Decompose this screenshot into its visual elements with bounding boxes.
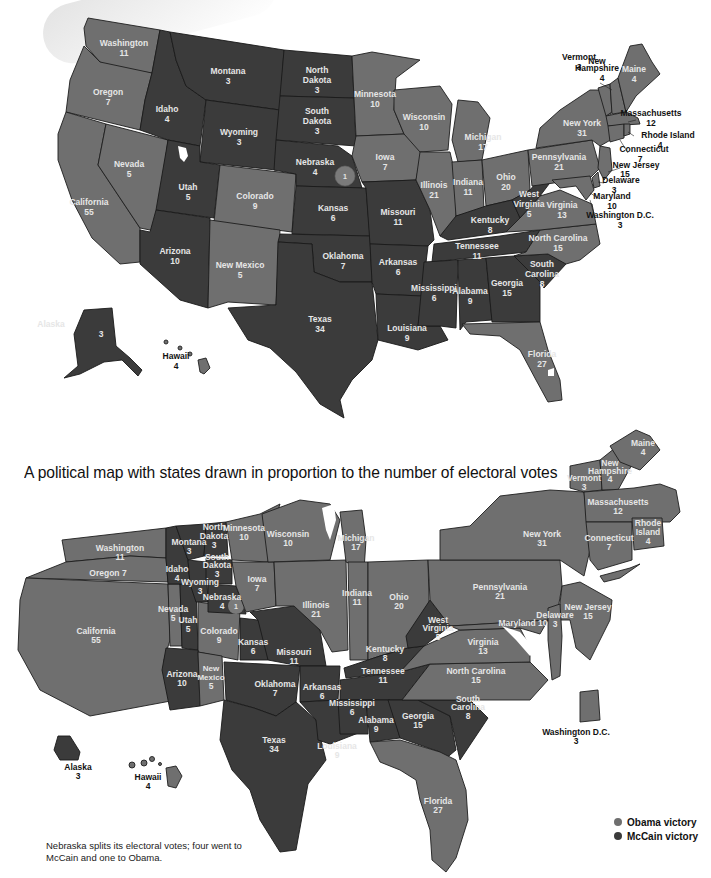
cart-alaska[interactable] xyxy=(54,736,80,760)
svg-text:21: 21 xyxy=(554,162,564,172)
svg-text:West: West xyxy=(519,189,539,199)
svg-text:3: 3 xyxy=(99,329,104,339)
cart-arkansas[interactable] xyxy=(300,666,340,702)
cart-mississippi[interactable] xyxy=(338,700,368,734)
svg-text:Kansas: Kansas xyxy=(318,203,349,213)
svg-text:11: 11 xyxy=(464,187,473,197)
cart-indiana[interactable] xyxy=(348,562,368,660)
cart-california[interactable] xyxy=(18,578,176,716)
svg-text:5: 5 xyxy=(527,209,532,219)
cart-connecticut[interactable] xyxy=(586,522,632,570)
svg-text:Illinois: Illinois xyxy=(421,180,448,190)
svg-text:Iowa: Iowa xyxy=(376,152,395,162)
svg-text:Texas: Texas xyxy=(308,314,332,324)
svg-text:27: 27 xyxy=(537,359,547,369)
cart-arizona[interactable] xyxy=(162,648,200,710)
svg-text:Oregon: Oregon xyxy=(93,87,123,97)
svg-text:7: 7 xyxy=(341,261,346,271)
cart-rhode-island[interactable] xyxy=(632,518,664,550)
svg-text:Hawaii: Hawaii xyxy=(163,351,190,361)
svg-text:31: 31 xyxy=(577,128,587,138)
svg-text:34: 34 xyxy=(315,324,325,334)
legend: Obama victory McCain victory xyxy=(614,815,698,843)
svg-text:Washington D.C.: Washington D.C. xyxy=(542,727,610,737)
svg-text:7: 7 xyxy=(106,97,111,107)
svg-text:Colorado: Colorado xyxy=(236,191,273,201)
svg-text:Carolina: Carolina xyxy=(525,269,559,279)
svg-text:11: 11 xyxy=(473,251,482,261)
svg-text:Arkansas: Arkansas xyxy=(379,257,418,267)
svg-text:Georgia: Georgia xyxy=(491,278,523,288)
cart-vermont[interactable] xyxy=(570,460,602,492)
svg-text:Michigan: Michigan xyxy=(465,132,502,142)
svg-text:6: 6 xyxy=(331,213,336,223)
svg-text:Mississippi: Mississippi xyxy=(411,283,457,293)
cart-delaware[interactable] xyxy=(548,604,562,680)
svg-text:Virginia: Virginia xyxy=(546,200,577,210)
svg-text:Delaware: Delaware xyxy=(602,175,640,185)
cart-dc[interactable] xyxy=(580,690,600,722)
svg-text:5: 5 xyxy=(186,192,191,202)
state-alaska[interactable] xyxy=(64,308,142,378)
svg-text:5: 5 xyxy=(127,169,132,179)
svg-text:9: 9 xyxy=(335,750,340,760)
svg-text:12: 12 xyxy=(646,118,656,128)
state-connecticut[interactable] xyxy=(608,124,624,142)
svg-text:10: 10 xyxy=(419,122,429,132)
state-florida[interactable] xyxy=(462,322,562,402)
legend-label-mccain: McCain victory xyxy=(627,831,698,842)
mccain-color-swatch-icon xyxy=(614,832,622,840)
svg-text:7: 7 xyxy=(383,162,388,172)
legend-item-mccain: McCain victory xyxy=(614,829,698,843)
svg-text:9: 9 xyxy=(253,201,258,211)
svg-text:8: 8 xyxy=(540,279,545,289)
cart-new-jersey[interactable] xyxy=(558,582,612,660)
svg-text:Tennessee: Tennessee xyxy=(455,241,499,251)
svg-text:4: 4 xyxy=(313,167,318,177)
cartogram-caption: A political map with states drawn in pro… xyxy=(24,463,557,483)
state-rhode-island[interactable] xyxy=(624,124,630,136)
state-maine[interactable] xyxy=(618,44,660,112)
svg-text:New Mexico: New Mexico xyxy=(216,260,265,270)
svg-text:Massachusetts: Massachusetts xyxy=(621,108,682,118)
cart-oregon[interactable] xyxy=(26,556,168,582)
svg-text:Pennsylvania: Pennsylvania xyxy=(532,152,587,162)
svg-text:New York: New York xyxy=(563,118,601,128)
svg-text:South: South xyxy=(530,259,554,269)
cart-north-dakota[interactable] xyxy=(204,522,228,556)
cart-south-dakota[interactable] xyxy=(206,558,232,584)
svg-text:9: 9 xyxy=(405,333,410,343)
svg-text:Louisiana: Louisiana xyxy=(387,323,427,333)
svg-text:5: 5 xyxy=(238,270,243,280)
svg-text:Kentucky: Kentucky xyxy=(471,215,510,225)
svg-text:Alabama: Alabama xyxy=(452,286,488,296)
svg-text:Oklahoma: Oklahoma xyxy=(322,251,363,261)
cart-pennsylvania[interactable] xyxy=(428,560,562,626)
svg-text:8: 8 xyxy=(488,225,493,235)
svg-text:4: 4 xyxy=(165,114,170,124)
cart-nebraska-split-label: 1 xyxy=(234,603,238,610)
svg-text:Virginia: Virginia xyxy=(513,199,544,209)
svg-text:Utah: Utah xyxy=(179,182,198,192)
state-michigan[interactable] xyxy=(452,100,490,162)
svg-text:Wisconsin: Wisconsin xyxy=(403,112,445,122)
cart-new-mexico[interactable] xyxy=(198,652,224,706)
cart-florida[interactable] xyxy=(370,740,468,872)
svg-text:Florida: Florida xyxy=(528,349,557,359)
svg-text:3: 3 xyxy=(76,771,81,781)
svg-text:10: 10 xyxy=(170,256,180,266)
svg-text:11: 11 xyxy=(394,217,403,227)
svg-text:North: North xyxy=(306,65,329,75)
svg-text:4: 4 xyxy=(174,361,179,371)
svg-text:Montana: Montana xyxy=(211,66,246,76)
svg-text:Nebraska: Nebraska xyxy=(296,157,335,167)
svg-text:20: 20 xyxy=(501,182,511,192)
svg-text:11: 11 xyxy=(120,48,129,58)
svg-text:3: 3 xyxy=(315,126,320,136)
svg-text:Hawaii: Hawaii xyxy=(135,772,162,782)
svg-text:Maryland: Maryland xyxy=(593,191,630,201)
cart-hawaii[interactable] xyxy=(129,757,182,789)
nebraska-split-label: 1 xyxy=(343,173,347,180)
svg-text:3: 3 xyxy=(574,736,579,746)
cart-texas[interactable] xyxy=(220,700,326,852)
